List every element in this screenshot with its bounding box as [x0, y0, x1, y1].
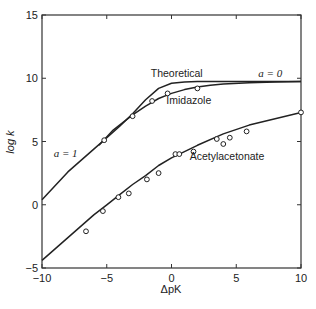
x-tick-label: −5	[100, 272, 113, 284]
data-point	[244, 129, 249, 134]
data-point	[227, 135, 232, 140]
y-tick-label: 10	[26, 72, 38, 84]
x-tick-label: 10	[295, 272, 307, 284]
data-point	[299, 110, 304, 115]
y-tick-label: 0	[32, 199, 38, 211]
imidazole-curve	[99, 81, 301, 145]
data-point	[150, 99, 155, 104]
plot-frame	[42, 15, 301, 268]
acetylacetonate-curve	[42, 112, 301, 260]
data-point	[214, 137, 219, 142]
data-point	[177, 152, 182, 157]
data-point	[84, 229, 89, 234]
y-tick-label: −5	[25, 262, 38, 274]
y-axis-ticks: −5051015	[25, 9, 301, 274]
x-tick-label: 5	[233, 272, 239, 284]
annotation-label: Imidazole	[166, 94, 211, 106]
y-tick-label: 5	[32, 136, 38, 148]
annotation-label: a = 1	[54, 147, 78, 159]
data-point	[130, 114, 135, 119]
data-point	[126, 191, 131, 196]
data-curves	[42, 81, 301, 260]
y-axis-title: log k	[4, 130, 16, 154]
annotation-label: Theoretical	[151, 67, 203, 79]
data-point	[116, 195, 121, 200]
y-tick-label: 15	[26, 9, 38, 21]
annotation-label: Acetylacetonate	[190, 150, 265, 162]
data-point	[101, 209, 106, 214]
data-point	[221, 142, 226, 147]
data-point	[102, 138, 107, 143]
annotation-label: a = 0	[258, 67, 282, 79]
x-axis-title: ΔpK	[161, 283, 182, 295]
data-point	[145, 177, 150, 182]
data-point	[156, 171, 161, 176]
chart-figure: −10−50510 −5051015 TheoreticalImidazoleA…	[0, 0, 316, 309]
data-point	[195, 86, 200, 91]
